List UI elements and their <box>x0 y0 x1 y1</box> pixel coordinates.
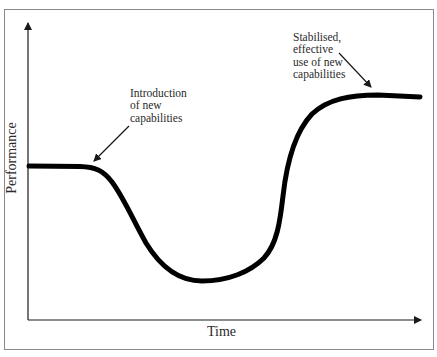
figure-frame <box>5 10 434 350</box>
stabilised-annotation: Stabilised, effective use of new capabil… <box>293 31 345 81</box>
y-axis-label: Performance <box>4 120 20 196</box>
annotation-line: Stabilised, <box>293 31 345 43</box>
annotation-line: of new <box>130 99 187 111</box>
annotation-line: capabilities <box>293 68 345 80</box>
annotation-line: effective <box>293 43 345 55</box>
diagram-canvas <box>0 0 437 357</box>
performance-curve <box>29 95 420 281</box>
x-axis-label: Time <box>207 324 236 340</box>
annotation-line: use of new <box>293 56 345 68</box>
introduction-arrow <box>94 126 129 161</box>
performance-dip-diagram: Performance Time Introduction of new cap… <box>0 0 437 357</box>
annotation-line: capabilities <box>130 112 187 124</box>
annotation-line: Introduction <box>130 87 187 99</box>
introduction-annotation: Introduction of new capabilities <box>130 87 187 124</box>
